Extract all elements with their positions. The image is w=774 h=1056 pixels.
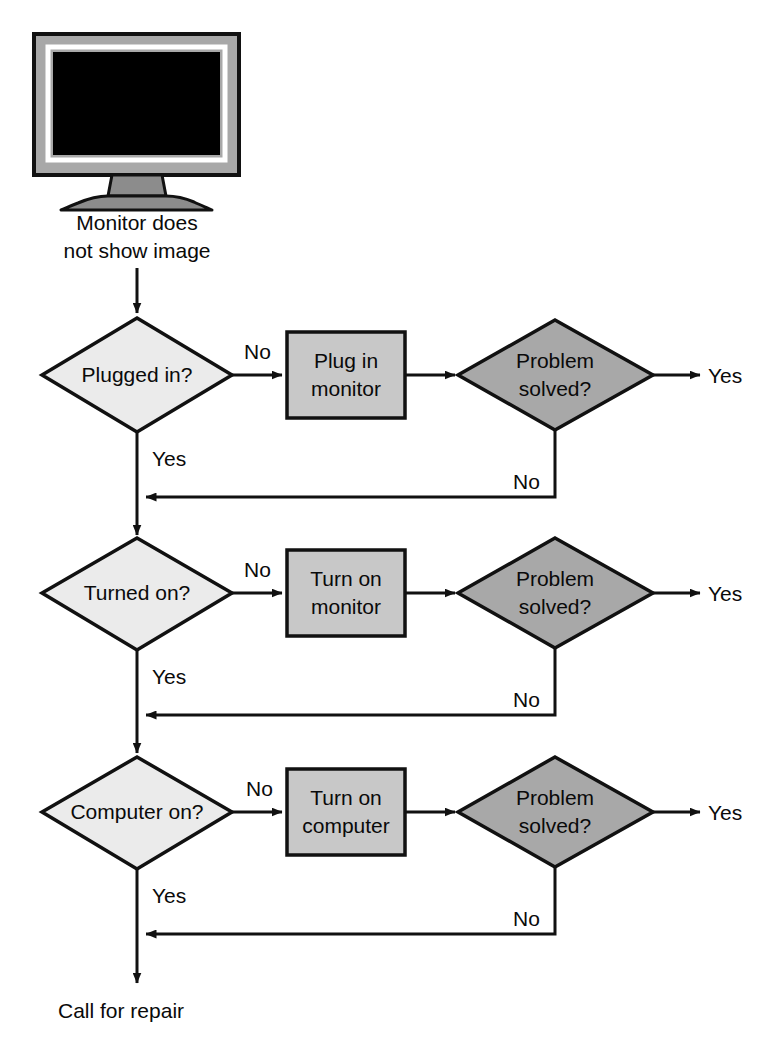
process-turn-on-computer-shape xyxy=(287,769,405,855)
process-turn-on-monitor[interactable]: Turn on monitor xyxy=(287,550,405,636)
check-problem-solved-1-label-line-1: Problem xyxy=(516,349,594,372)
edge-label-yes-exit-3: Yes xyxy=(708,801,742,824)
check-problem-solved-2[interactable]: Problem solved? xyxy=(458,538,653,648)
edge-label-yes-down-3: Yes xyxy=(152,884,186,907)
check-problem-solved-3-label-line-2: solved? xyxy=(519,814,591,837)
edge-label-yes-down-2: Yes xyxy=(152,665,186,688)
check-problem-solved-1[interactable]: Problem solved? xyxy=(458,320,653,430)
caption-line-1: Monitor does xyxy=(76,211,197,234)
decision-plugged-in[interactable]: Plugged in? xyxy=(42,318,232,432)
caption-line-2: not show image xyxy=(63,239,210,262)
decision-plugged-in-label: Plugged in? xyxy=(82,363,193,386)
terminal-call-for-repair: Call for repair xyxy=(58,999,184,1022)
monitor-screen xyxy=(53,52,220,155)
edge-label-no-feedback-2: No xyxy=(513,688,540,711)
process-turn-on-computer-label-line-1: Turn on xyxy=(310,786,382,809)
monitor-base xyxy=(61,196,212,210)
check-problem-solved-2-shape xyxy=(458,538,653,648)
check-problem-solved-2-label-line-1: Problem xyxy=(516,567,594,590)
check-problem-solved-3-label-line-1: Problem xyxy=(516,786,594,809)
edge-check2-no-feedback xyxy=(146,648,555,715)
process-plug-in-monitor-label-line-2: monitor xyxy=(311,377,381,400)
monitor-neck xyxy=(108,175,166,196)
process-plug-in-monitor-shape xyxy=(287,332,405,418)
edge-label-no-2: No xyxy=(244,558,271,581)
edge-label-yes-exit-1: Yes xyxy=(708,364,742,387)
check-problem-solved-2-label-line-2: solved? xyxy=(519,595,591,618)
edge-check1-no-feedback xyxy=(146,430,555,497)
edge-label-yes-exit-2: Yes xyxy=(708,582,742,605)
edge-label-no-3: No xyxy=(246,777,273,800)
edge-label-no-feedback-1: No xyxy=(513,470,540,493)
decision-computer-on-label: Computer on? xyxy=(70,800,203,823)
check-problem-solved-1-shape xyxy=(458,320,653,430)
process-turn-on-monitor-label-line-1: Turn on xyxy=(310,567,382,590)
row-2: Turned on? No Turn on monitor Problem so… xyxy=(42,538,742,753)
edge-label-no-feedback-3: No xyxy=(513,907,540,930)
process-turn-on-monitor-label-line-2: monitor xyxy=(311,595,381,618)
process-turn-on-computer-label-line-2: computer xyxy=(302,814,390,837)
flowchart-canvas: Monitor does not show image Plugged in? … xyxy=(0,0,774,1056)
process-turn-on-monitor-shape xyxy=(287,550,405,636)
start-caption: Monitor does not show image xyxy=(63,211,210,262)
decision-computer-on[interactable]: Computer on? xyxy=(42,757,232,869)
troubleshooting-flowchart: Monitor does not show image Plugged in? … xyxy=(0,0,774,1056)
process-turn-on-computer[interactable]: Turn on computer xyxy=(287,769,405,855)
row-1: Plugged in? No Plug in monitor Problem s… xyxy=(42,318,742,535)
process-plug-in-monitor-label-line-1: Plug in xyxy=(314,349,378,372)
edge-label-yes-down-1: Yes xyxy=(152,447,186,470)
check-problem-solved-3[interactable]: Problem solved? xyxy=(458,757,653,867)
edge-label-no-1: No xyxy=(244,340,271,363)
check-problem-solved-3-shape xyxy=(458,757,653,867)
process-plug-in-monitor[interactable]: Plug in monitor xyxy=(287,332,405,418)
edge-check3-no-feedback xyxy=(146,867,555,934)
monitor-icon xyxy=(34,34,239,210)
row-3: Computer on? No Turn on computer Problem… xyxy=(42,757,742,983)
check-problem-solved-1-label-line-2: solved? xyxy=(519,377,591,400)
decision-turned-on-label: Turned on? xyxy=(84,581,191,604)
decision-turned-on[interactable]: Turned on? xyxy=(42,538,232,650)
